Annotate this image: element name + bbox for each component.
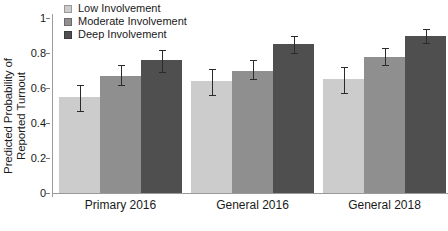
error-bar-cap-lower — [341, 93, 348, 94]
legend: Low InvolvementModerate InvolvementDeep … — [64, 3, 187, 42]
error-bar-cap-lower — [291, 53, 298, 54]
error-bar-cap-lower — [77, 111, 84, 112]
error-bar — [344, 67, 345, 93]
legend-label: Moderate Involvement — [78, 16, 187, 27]
bar — [405, 36, 446, 194]
bar — [141, 60, 182, 193]
y-tick-mark — [46, 193, 50, 194]
error-bar-cap-upper — [423, 29, 430, 30]
error-bar — [121, 65, 122, 84]
error-bar — [80, 85, 81, 111]
error-bar-cap-upper — [382, 48, 389, 49]
y-tick-label: 0 — [20, 188, 46, 199]
error-bar — [253, 60, 254, 79]
error-bar-cap-lower — [159, 72, 166, 73]
y-tick-label: 1 — [20, 13, 46, 24]
y-tick-mark — [46, 158, 50, 159]
y-tick-mark — [46, 18, 50, 19]
error-bar — [212, 69, 213, 95]
legend-label: Low Involvement — [78, 3, 161, 14]
error-bar-cap-lower — [250, 79, 257, 80]
error-bar-cap-upper — [209, 69, 216, 70]
bar — [191, 81, 232, 193]
legend-item: Deep Involvement — [64, 29, 187, 40]
y-tick-label: 0.2 — [20, 153, 46, 164]
y-tick-label: 0.4 — [20, 118, 46, 129]
legend-swatch-icon — [64, 31, 72, 39]
y-tick-mark — [46, 88, 50, 89]
legend-item: Moderate Involvement — [64, 16, 187, 27]
plot-area — [52, 18, 448, 193]
error-bar-cap-upper — [250, 60, 257, 61]
error-bar-cap-upper — [118, 65, 125, 66]
error-bar — [294, 36, 295, 54]
y-tick-label: 0.8 — [20, 48, 46, 59]
y-tick-label: 0.6 — [20, 83, 46, 94]
y-axis-tick-labels: 00.20.40.60.81 — [14, 0, 46, 231]
error-bar-cap-lower — [423, 43, 430, 44]
legend-swatch-icon — [64, 5, 72, 13]
y-axis-title-line1: Predicted Probability of — [2, 58, 14, 174]
bar — [273, 44, 314, 193]
legend-swatch-icon — [64, 18, 72, 26]
error-bar-cap-lower — [118, 85, 125, 86]
bar — [100, 76, 141, 193]
x-axis-line — [52, 193, 448, 194]
x-group-label: Primary 2016 — [85, 198, 156, 212]
error-bar-cap-lower — [209, 95, 216, 96]
error-bar-cap-lower — [382, 65, 389, 66]
bar — [232, 71, 273, 194]
x-group-label: General 2018 — [348, 198, 421, 212]
legend-label: Deep Involvement — [78, 29, 167, 40]
error-bar-cap-upper — [159, 50, 166, 51]
bar-chart-figure: Predicted Probability of Reported Turnou… — [0, 0, 448, 231]
bar — [323, 79, 364, 193]
error-bar — [385, 48, 386, 66]
x-group-label: General 2016 — [216, 198, 289, 212]
error-bar-cap-upper — [291, 36, 298, 37]
y-tick-mark — [46, 53, 50, 54]
error-bar — [162, 50, 163, 73]
error-bar-cap-upper — [77, 85, 84, 86]
error-bar — [426, 29, 427, 43]
legend-item: Low Involvement — [64, 3, 187, 14]
y-tick-mark — [46, 123, 50, 124]
bar — [364, 57, 405, 194]
error-bar-cap-upper — [341, 67, 348, 68]
